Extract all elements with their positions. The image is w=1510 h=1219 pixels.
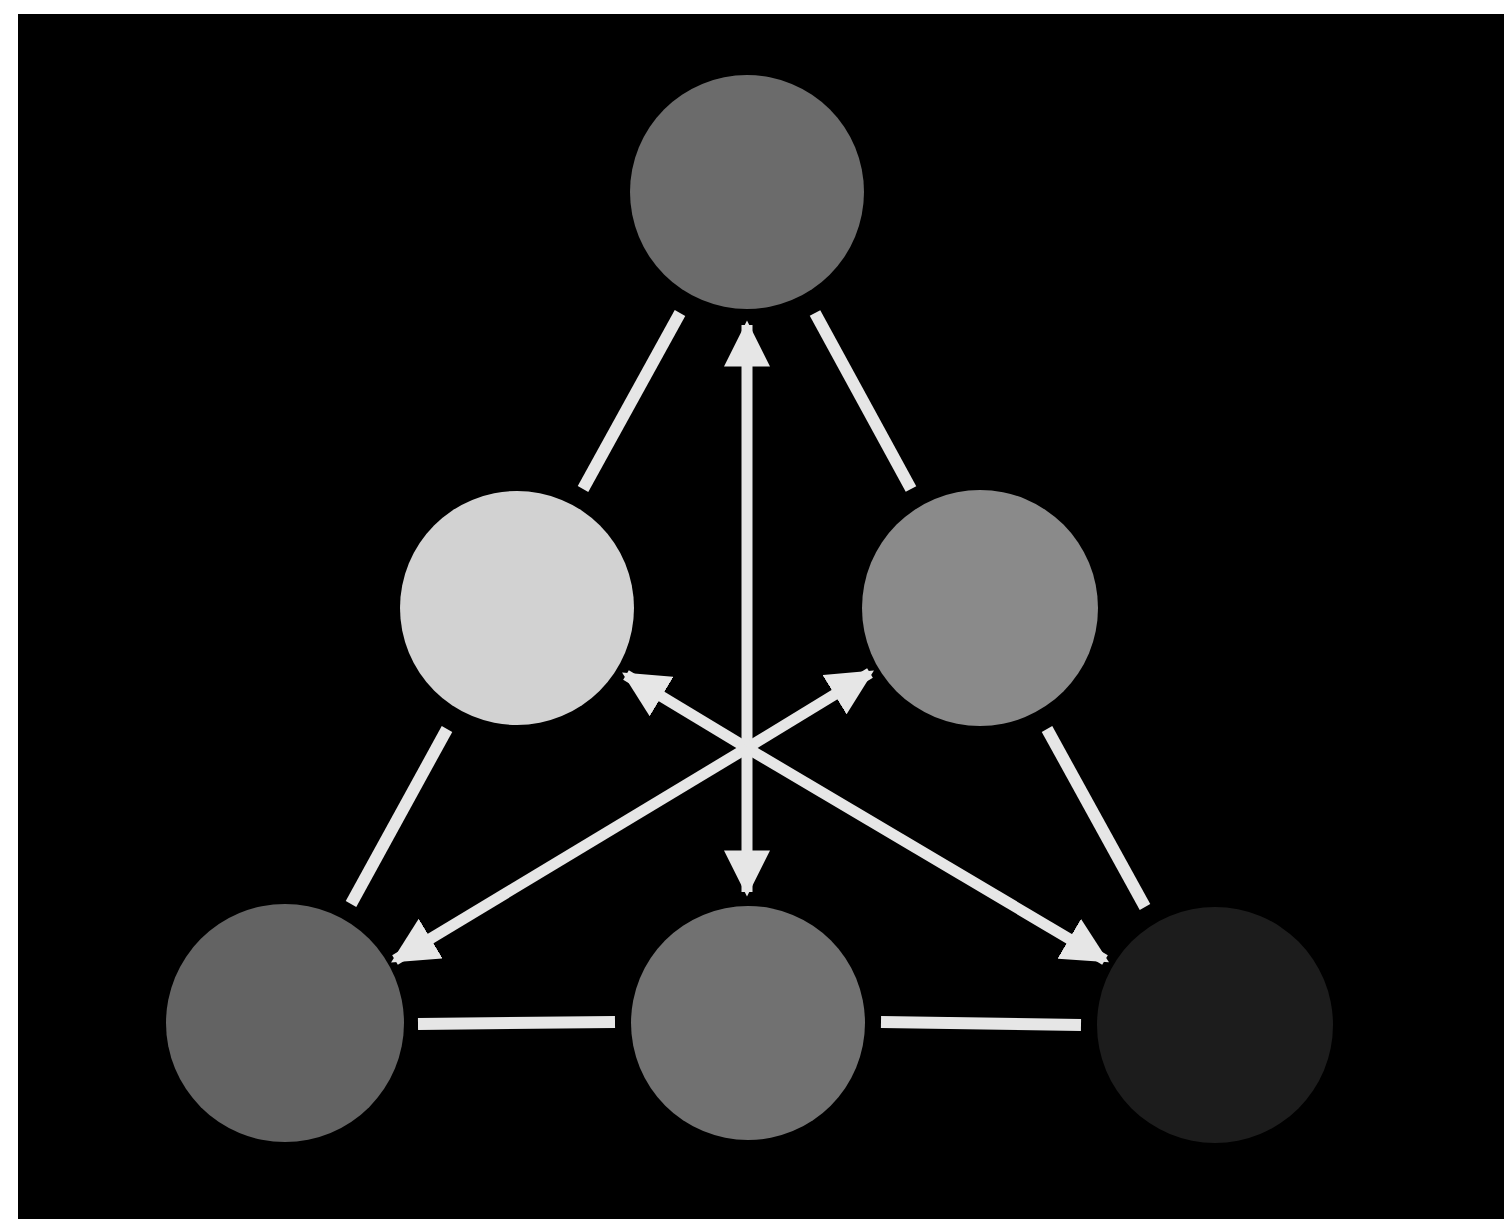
edge-bottom-left-to-bottom-center xyxy=(418,1022,615,1024)
edge-top-to-mid-right xyxy=(815,313,911,489)
edge-top-to-mid-left xyxy=(583,313,680,489)
node-top xyxy=(630,75,864,309)
node-bottom-center xyxy=(631,906,865,1140)
node-relationship-diagram xyxy=(0,0,1510,1219)
edge-mid-left-to-bottom-left xyxy=(351,729,447,904)
diag-arrow-to-mid-right-icon xyxy=(747,673,870,748)
edge-mid-right-to-bottom-right xyxy=(1047,729,1145,907)
node-mid-right xyxy=(862,490,1098,726)
node-bottom-left xyxy=(166,904,404,1142)
edge-bottom-center-to-bottom-right xyxy=(881,1022,1081,1025)
node-bottom-right xyxy=(1097,907,1333,1143)
diag-arrow-to-mid-left-icon xyxy=(626,675,747,748)
node-mid-left xyxy=(400,491,634,725)
